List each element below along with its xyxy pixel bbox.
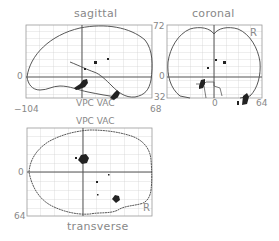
glass-brain-figure xyxy=(0,0,279,241)
transverse-panel xyxy=(27,128,152,216)
sagittal-panel xyxy=(26,25,152,100)
coronal-panel xyxy=(167,25,262,105)
